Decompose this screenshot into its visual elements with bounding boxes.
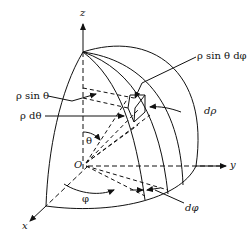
diagram-drawing: [0, 0, 250, 242]
spherical-volume-diagram: z y x O θ φ ρ sin θ ρ dθ ρ sin θ dφ dρ d…: [0, 0, 250, 242]
theta-label: θ: [86, 136, 92, 146]
rho-sin-theta-dphi-label: ρ sin θ dφ: [197, 51, 247, 61]
dphi-label: dφ: [185, 203, 198, 213]
y-axis-label: y: [230, 160, 236, 170]
drho-label: dρ: [204, 106, 216, 116]
rho-sin-theta-label: ρ sin θ: [16, 91, 49, 101]
x-axis-label: x: [22, 221, 28, 231]
rho-dtheta-label: ρ dθ: [20, 111, 41, 121]
z-axis-label: z: [80, 8, 85, 18]
phi-label: φ: [82, 194, 89, 204]
x-axis: [30, 206, 46, 221]
origin-label: O: [74, 160, 82, 170]
